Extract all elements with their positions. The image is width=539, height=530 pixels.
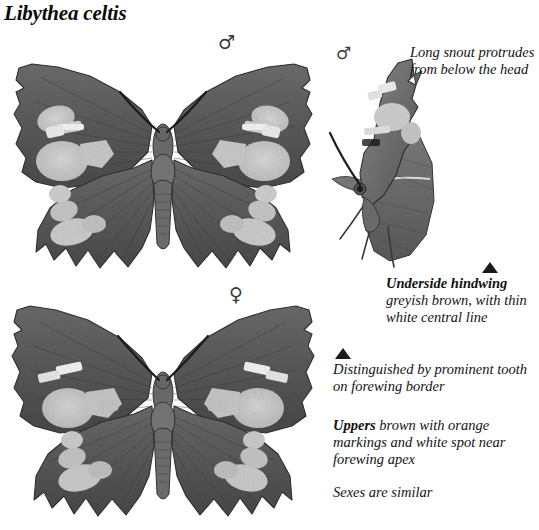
annotation-snout-text: Long snout protrudes from below the head (410, 44, 534, 77)
female-body (151, 372, 175, 499)
annotation-sexes-text: Sexes are similar (333, 484, 432, 500)
male-symbol-upperside: ♂ (218, 33, 235, 52)
annotation-sexes: Sexes are similar (333, 484, 533, 501)
annotation-tooth: Distinguished by prominent tooth on fore… (333, 361, 539, 395)
page-title: Libythea celtis (4, 1, 126, 26)
male-symbol-underside: ♂ (336, 45, 351, 62)
annotation-uppers: Uppers brown with orange markings and wh… (333, 417, 533, 468)
male-upperside-artwork (2, 48, 324, 284)
figure-male-upperside (2, 48, 324, 284)
male-body (151, 124, 175, 249)
annotation-tooth-text: Distinguished by prominent tooth on fore… (333, 361, 527, 394)
annotation-underside-lead: Underside hindwing (386, 275, 507, 291)
female-upperside-artwork (2, 288, 324, 528)
annotation-uppers-lead: Uppers (333, 417, 376, 433)
annotation-underside: Underside hindwing greyish brown, with t… (386, 275, 539, 326)
figure-male-underside (318, 55, 440, 277)
male-underside-artwork (318, 55, 440, 277)
underside-hindwing-pointer-icon (482, 262, 498, 273)
annotation-underside-text: greyish brown, with thin white central l… (386, 292, 527, 325)
forewing-tooth-pointer-icon (335, 348, 351, 359)
figure-female-upperside (2, 288, 324, 528)
illustration-page: Libythea celtis (0, 0, 539, 530)
female-symbol-upperside: ♀ (229, 285, 243, 304)
annotation-snout: Long snout protrudes from below the head (410, 44, 538, 78)
